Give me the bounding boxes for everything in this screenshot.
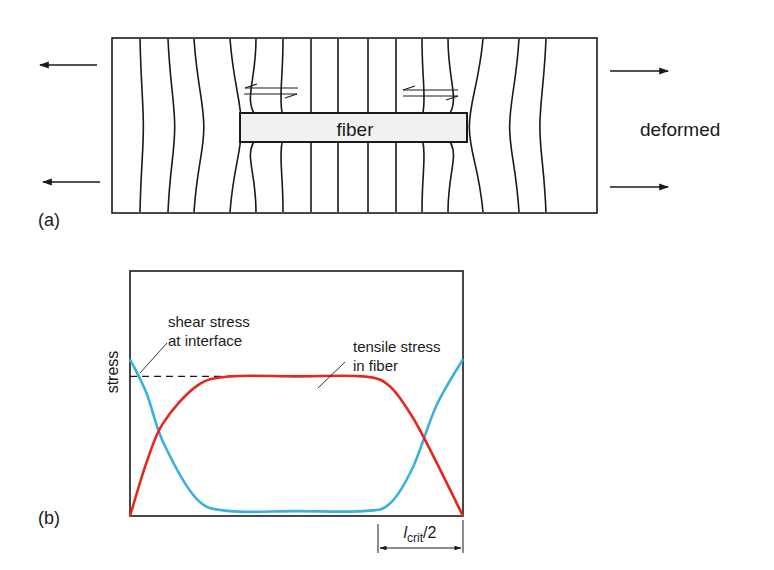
grid-line bbox=[140, 39, 143, 212]
grid-line bbox=[540, 39, 546, 212]
panel-b: shear stress at interface tensile stress… bbox=[38, 271, 463, 553]
shear-arrows-right bbox=[403, 86, 458, 100]
panel-a: fiber deformed (a) bbox=[38, 38, 720, 230]
lcrit-subscript: crit bbox=[407, 531, 424, 545]
shear-stress-curve bbox=[130, 359, 463, 512]
shear-arrows-left bbox=[244, 84, 298, 98]
tensile-annotation-line1: tensile stress bbox=[353, 338, 441, 355]
shear-annotation-line1: shear stress bbox=[168, 313, 250, 330]
figure: fiber deformed (a) shear bbox=[0, 0, 774, 570]
grid-line bbox=[510, 39, 519, 212]
lcrit-label: lcrit/2 bbox=[404, 524, 437, 545]
panel-b-label: (b) bbox=[38, 508, 60, 528]
grid-line bbox=[194, 39, 204, 212]
grid-line bbox=[168, 39, 175, 212]
grid-line bbox=[469, 39, 483, 212]
lcrit-suffix: /2 bbox=[423, 524, 436, 541]
tensile-annotation-line2: in fiber bbox=[353, 357, 398, 374]
shear-annotation-line2: at interface bbox=[168, 332, 242, 349]
tensile-stress-curve bbox=[130, 376, 463, 516]
lcrit-dimension: lcrit/2 bbox=[378, 520, 463, 553]
panel-a-label: (a) bbox=[38, 210, 60, 230]
fiber-label: fiber bbox=[337, 119, 375, 140]
shear-leader-line bbox=[140, 343, 167, 373]
plot-frame bbox=[130, 271, 463, 516]
y-axis-label: stress bbox=[104, 351, 121, 394]
deformed-label: deformed bbox=[640, 119, 720, 140]
